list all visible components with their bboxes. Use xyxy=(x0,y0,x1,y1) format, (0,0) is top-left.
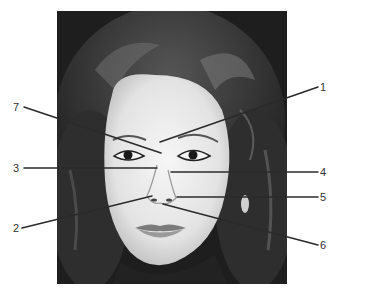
label-5: 5 xyxy=(320,191,326,203)
face-diagram: 1 2 3 4 5 6 7 xyxy=(0,0,384,296)
label-4: 4 xyxy=(320,166,326,178)
label-3: 3 xyxy=(13,162,19,174)
label-2: 2 xyxy=(13,222,19,234)
label-7: 7 xyxy=(13,101,19,113)
label-6: 6 xyxy=(320,239,326,251)
portrait-photo xyxy=(50,5,295,290)
label-1: 1 xyxy=(320,81,326,93)
